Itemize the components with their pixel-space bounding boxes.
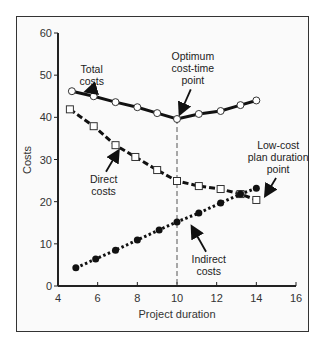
open-square-marker: [66, 106, 73, 113]
open-square-marker: [154, 167, 161, 174]
y-tick-label: 60: [40, 27, 52, 39]
x-tick-label: 10: [171, 292, 183, 304]
filled-circle-marker: [72, 264, 79, 271]
open-circle-marker: [217, 108, 224, 115]
open-square-marker: [195, 183, 202, 190]
series-line: [76, 188, 256, 268]
y-axis-title: Costs: [21, 145, 33, 174]
open-square-marker: [253, 196, 260, 203]
open-square-marker: [217, 186, 224, 193]
open-square-marker: [132, 153, 139, 160]
annotations: TotalcostsOptimumcost-timepointLow-costp…: [79, 50, 308, 276]
series-indirect-costs: [72, 185, 259, 272]
x-tick-label: 12: [211, 292, 223, 304]
filled-circle-marker: [134, 237, 141, 244]
annotation-label: Direct: [90, 173, 118, 185]
annotation-label: Low-cost: [257, 139, 299, 151]
open-circle-marker: [174, 116, 181, 123]
open-square-marker: [112, 142, 119, 149]
annotation-label: costs: [91, 185, 116, 197]
series-total-costs: [68, 88, 259, 123]
annotation-label: costs: [79, 75, 104, 87]
annotation-optimum-cost-time-point: Optimumcost-timepoint: [172, 50, 215, 113]
filled-circle-marker: [253, 185, 260, 192]
filled-circle-marker: [174, 218, 181, 225]
x-tick-label: 8: [134, 292, 140, 304]
annotation-label: point: [181, 74, 204, 86]
annotation-label: point: [267, 163, 290, 175]
filled-circle-marker: [195, 210, 202, 217]
y-tick-label: 50: [40, 69, 52, 81]
x-tick-label: 4: [55, 292, 61, 304]
y-tick-label: 10: [40, 238, 52, 250]
open-circle-marker: [134, 104, 141, 111]
annotation-arrow: [87, 90, 91, 91]
open-square-marker: [90, 123, 97, 130]
annotation-label: costs: [196, 265, 221, 277]
open-circle-marker: [195, 110, 202, 117]
annotation-arrow: [266, 178, 276, 195]
y-tick-label: 30: [40, 154, 52, 166]
open-circle-marker: [68, 88, 75, 95]
series-line: [72, 91, 256, 119]
filled-circle-marker: [156, 226, 163, 233]
annotation-arrow: [106, 152, 118, 172]
y-tick-label: 0: [46, 280, 52, 292]
annotation-label: Optimum: [172, 50, 215, 62]
open-circle-marker: [90, 93, 97, 100]
filled-circle-marker: [237, 191, 244, 198]
y-tick-label: 20: [40, 196, 52, 208]
x-tick-label: 6: [95, 292, 101, 304]
annotation-label: cost-time: [172, 62, 215, 74]
annotation-direct-costs: Directcosts: [90, 152, 118, 197]
cost-duration-chart: 010203040506046810121416 TotalcostsOptim…: [0, 0, 322, 344]
open-circle-marker: [237, 102, 244, 109]
open-square-marker: [174, 178, 181, 185]
annotation-arrow: [192, 227, 206, 251]
open-circle-marker: [112, 99, 119, 106]
annotation-label: Total: [81, 63, 103, 75]
annotation-label: Indirect: [192, 253, 227, 265]
x-tick-label: 14: [250, 292, 262, 304]
filled-circle-marker: [92, 256, 99, 263]
x-tick-label: 16: [290, 292, 302, 304]
annotation-total-costs: Totalcosts: [79, 63, 104, 91]
open-circle-marker: [154, 110, 161, 117]
annotation-label: plan duration: [248, 151, 309, 163]
filled-circle-marker: [112, 247, 119, 254]
annotation-indirect-costs: Indirectcosts: [192, 227, 227, 276]
annotation-arrow: [180, 89, 191, 113]
filled-circle-marker: [217, 199, 224, 206]
y-tick-label: 40: [40, 111, 52, 123]
open-circle-marker: [253, 97, 260, 104]
x-axis-title: Project duration: [138, 308, 215, 320]
